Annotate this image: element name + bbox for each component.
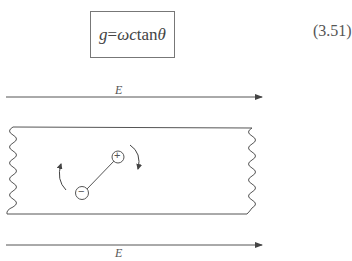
rotation-arrow-left <box>59 164 66 190</box>
minus-sign: − <box>78 185 84 197</box>
slab-left-wavy-edge <box>7 127 17 214</box>
rotation-arrow-right <box>130 145 139 169</box>
slab-right-wavy-edge <box>247 128 256 214</box>
plus-sign: + <box>114 149 120 161</box>
slab-top-edge <box>13 127 252 128</box>
dipole-bond <box>87 161 114 189</box>
